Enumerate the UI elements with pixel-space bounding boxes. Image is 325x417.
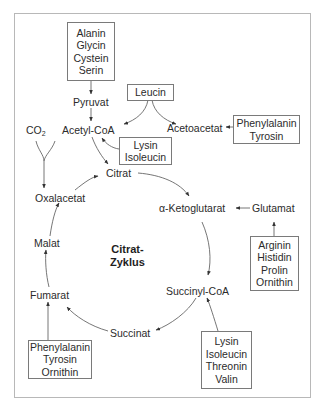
box-alanin-glycin-cystein-serin: Alanin Glycin Cystein Serin (67, 22, 115, 81)
node-oxalacetat: Oxalacetat (35, 192, 85, 204)
box-arginin-histidin-prolin-ornithin: Arginin Histidin Prolin Ornithin (250, 236, 299, 291)
box-phenylalanin-tyrosin-top: Phenylalanin Tyrosin (233, 115, 300, 144)
arrow-acetylcoa-to-citrat (92, 137, 108, 164)
node-co2: CO2 (26, 124, 46, 140)
label-phenylalanin: Phenylalanin (30, 341, 90, 354)
node-citrat: Citrat (106, 167, 131, 179)
label-histidin: Histidin (257, 251, 291, 264)
diagram-canvas: Alanin Glycin Cystein Serin Leucin Pheny… (0, 0, 325, 417)
node-acetoacetat: Acetoacetat (167, 122, 222, 134)
cycle-title-line2: Zyklus (110, 256, 145, 269)
node-fumarat: Fumarat (30, 289, 69, 301)
arrow-citrat-to-akg (138, 173, 189, 196)
co2-subscript: 2 (42, 130, 46, 137)
node-malat: Malat (34, 237, 60, 249)
box-lysin-isoleucin: Lysin Isoleucin (119, 137, 172, 165)
box-lysin-isoleucin-threonin-valin: Lysin Isoleucin Threonin Valin (201, 331, 252, 389)
label-lysin: Lysin (133, 139, 157, 152)
label-alanin: Alanin (76, 27, 105, 40)
cycle-title: Citrat- Zyklus (110, 243, 145, 269)
label-serin: Serin (79, 64, 104, 77)
label-isoleucin: Isoleucin (125, 151, 166, 164)
cycle-title-line1: Citrat- (110, 243, 145, 256)
label-leucin: Leucin (135, 86, 166, 99)
node-glutamat: Glutamat (252, 202, 295, 214)
arrow-lysbox-to-succinylcoa (207, 298, 218, 331)
label-tyrosin: Tyrosin (250, 130, 284, 143)
node-pyruvat: Pyruvat (73, 96, 109, 108)
label-cystein: Cystein (73, 52, 108, 65)
arrow-acetyl-branch (44, 141, 55, 188)
label-lysin: Lysin (214, 335, 238, 348)
label-arginin: Arginin (258, 239, 291, 252)
label-isoleucin: Isoleucin (206, 348, 247, 361)
node-alpha-ketoglutarat: α-Ketoglutarat (159, 202, 225, 214)
box-leucin: Leucin (127, 84, 174, 101)
label-ornithin: Ornithin (256, 276, 293, 289)
node-succinat: Succinat (110, 327, 150, 339)
label-phenylalanin: Phenylalanin (236, 117, 296, 130)
arrow-leucin-to-acetylcoa (124, 100, 148, 124)
label-prolin: Prolin (261, 264, 288, 277)
arrow-succinat-to-fumarat (67, 307, 108, 331)
label-glycin: Glycin (76, 39, 105, 52)
label-valin: Valin (215, 373, 238, 386)
arrow-oxalacetat-to-citrat (75, 176, 98, 190)
label-ornithin: Ornithin (42, 366, 79, 379)
arrow-fumarat-to-malat (46, 250, 49, 287)
arrow-leucin-to-acetoacetat (152, 100, 176, 124)
label-threonin: Threonin (206, 360, 247, 373)
co2-text: CO (26, 124, 42, 136)
arrow-akg-to-succinylcoa (202, 222, 210, 275)
node-succinyl-coa: Succinyl-CoA (166, 285, 229, 297)
label-tyrosin: Tyrosin (43, 353, 77, 366)
arrow-succinylcoa-to-succinat (156, 298, 196, 330)
arrow-malat-to-oxalacetat (50, 203, 59, 236)
arrow-co2-branch (36, 141, 44, 161)
node-acetyl-coa: Acetyl-CoA (62, 124, 115, 136)
arrow-lysile-to-acetylcoa (102, 138, 119, 149)
box-phenylalanin-tyrosin-ornithin: Phenylalanin Tyrosin Ornithin (28, 340, 92, 379)
